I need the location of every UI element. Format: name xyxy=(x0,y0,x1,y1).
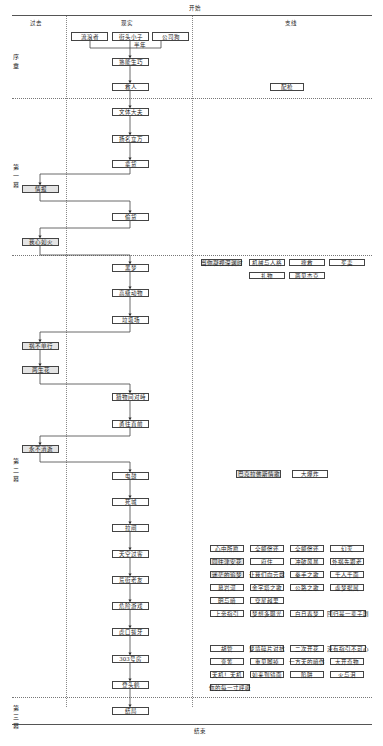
side-mission-box[interactable]: 大开奇物 xyxy=(330,658,364,665)
past-mission-box[interactable]: 我心如火 xyxy=(22,238,59,246)
side-mission-box[interactable]: 上帝指引 xyxy=(210,610,244,617)
mission-box[interactable]: 303号房 xyxy=(112,655,149,663)
side-mission-box[interactable]: 机械与人格 xyxy=(249,259,285,266)
side-mission-box[interactable]: 冲破风暴 xyxy=(290,558,324,565)
side-mission-box[interactable]: 胡管 xyxy=(210,645,244,652)
mission-box[interactable]: 电鼓 xyxy=(112,472,149,480)
mission-box[interactable]: 偷货 xyxy=(112,213,149,221)
mission-box[interactable]: 天空过客 xyxy=(112,550,149,558)
side-mission-box[interactable]: 礼物 xyxy=(249,272,285,279)
mission-box[interactable]: 文体大夫 xyxy=(112,108,149,116)
mission-box[interactable]: 熟能生巧 xyxy=(112,58,149,66)
side-mission-box[interactable]: 幻灭 xyxy=(330,545,364,552)
mission-box[interactable]: 高级动物 xyxy=(112,289,149,297)
side-mission-box[interactable]: 二次开花 xyxy=(290,645,324,652)
side-mission-box[interactable]: 一方天的暗伤 xyxy=(290,658,324,665)
side-mission-box[interactable]: 让我们向云端 xyxy=(250,571,284,578)
mission-box[interactable]: 荒街老友 xyxy=(112,576,149,584)
side-mission-box[interactable]: 当你凝视深渊时 xyxy=(201,259,242,266)
mission-box[interactable]: 救人 xyxy=(112,83,149,91)
side-mission-box[interactable]: 配枪 xyxy=(270,83,304,91)
side-mission-box[interactable]: 买卖 xyxy=(329,259,365,266)
origin-corpo[interactable]: 公司狗 xyxy=(152,32,189,41)
side-mission-box[interactable]: 迷茫的追梦 xyxy=(210,571,244,578)
mission-box[interactable]: 危险游戏 xyxy=(112,602,149,610)
side-mission-box[interactable]: 巴克拉佛斯情歌 xyxy=(236,470,281,478)
mission-box-ending[interactable]: 结局 xyxy=(112,707,149,715)
side-mission-box[interactable]: 变筹 xyxy=(210,658,244,665)
mission-box[interactable]: 拉闸 xyxy=(112,524,149,532)
side-mission-box[interactable]: 虚梦据展 xyxy=(330,584,364,591)
side-mission-box[interactable]: 天机！天机 xyxy=(210,671,244,678)
side-mission-box[interactable]: 梦境碎片对抗 xyxy=(250,645,284,652)
side-mission-box[interactable]: 拳手之歌 xyxy=(290,571,324,578)
side-mission-box[interactable]: 心中所愿 xyxy=(210,545,244,552)
mission-box[interactable]: 垃圾场 xyxy=(112,316,149,324)
past-mission-box[interactable]: 祸不单行 xyxy=(22,342,59,350)
mission-box[interactable]: 猎物间对峙 xyxy=(112,393,149,401)
side-mission-box[interactable]: 回归是一辈子剧 xyxy=(330,610,366,617)
side-mission-box[interactable]: 公路之歌 xyxy=(290,584,324,591)
mission-box[interactable]: 扬名立万 xyxy=(112,135,149,143)
side-mission-box[interactable]: 外祸先跟老 xyxy=(330,558,364,565)
side-mission-box[interactable]: 两见杰克 xyxy=(289,272,325,279)
origin-streetkid[interactable]: 街头小子 xyxy=(112,32,149,41)
side-mission-box[interactable]: 梦想多曝光 xyxy=(250,610,284,617)
side-mission-box[interactable]: 金字塔之歌 xyxy=(250,584,284,591)
side-mission-box[interactable]: 大爆炸 xyxy=(292,470,328,478)
side-mission-box[interactable]: 没有指引不可心 xyxy=(330,645,366,652)
side-mission-box[interactable]: 墓岩河 xyxy=(210,584,244,591)
side-mission-box[interactable]: 白日春梦 xyxy=(290,610,324,617)
past-mission-box[interactable]: 情报 xyxy=(22,185,59,193)
half-year-label: 半年 xyxy=(134,41,146,49)
mission-box[interactable]: 勇往直前 xyxy=(112,420,149,428)
mission-box[interactable]: 登头鹤 xyxy=(112,681,149,689)
side-mission-box[interactable]: 火与泪 xyxy=(330,671,364,678)
side-mission-box[interactable]: 千人千面 xyxy=(330,571,364,578)
side-mission-box[interactable]: 明与暗 xyxy=(210,597,244,604)
side-mission-box[interactable]: 重见脚掉 xyxy=(250,658,284,665)
past-mission-box[interactable]: 永不消逝 xyxy=(22,445,59,453)
origin-nomad[interactable]: 流浪者 xyxy=(71,32,108,41)
side-mission-box[interactable]: 如来到镜面 xyxy=(250,671,284,678)
mission-box[interactable]: 黑梦 xyxy=(112,264,149,272)
side-mission-box[interactable]: 全额偿还 xyxy=(290,545,324,552)
past-mission-box[interactable]: 两生花 xyxy=(22,366,59,374)
side-mission-box[interactable]: 府住 xyxy=(250,558,284,565)
side-mission-box[interactable]: 你的每一寸呼吸 xyxy=(210,684,250,691)
side-mission-box[interactable]: 陷阱 xyxy=(290,671,324,678)
mission-box[interactable]: 死城 xyxy=(112,498,149,506)
mission-box[interactable]: 虎口拔牙 xyxy=(112,628,149,636)
side-mission-box[interactable]: 同往津安花 xyxy=(210,558,244,565)
side-mission-box[interactable]: 搜救 xyxy=(289,259,325,266)
mission-box[interactable]: 拿货 xyxy=(112,160,149,168)
side-mission-box[interactable]: 穿星越里 xyxy=(250,597,284,604)
side-mission-box[interactable]: 全额偿还 xyxy=(250,545,284,552)
